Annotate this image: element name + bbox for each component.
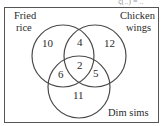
region-dim-sims-only: 11 bbox=[73, 89, 84, 101]
region-chicken-wings-only: 12 bbox=[104, 37, 115, 49]
label-dim-sims: Dim sims bbox=[108, 107, 149, 118]
header-cut-text: ξ(..) = .. bbox=[118, 0, 143, 6]
region-fried-rice-dim-sims: 6 bbox=[58, 68, 64, 80]
region-chicken-wings-dim-sims: 5 bbox=[93, 67, 99, 79]
label-chicken-wings-line2: wings bbox=[126, 22, 151, 33]
label-fried-rice-line2: rice bbox=[16, 22, 32, 33]
venn-diagram: ξ(..) = .. Fried rice Chicken wings Dim … bbox=[0, 0, 163, 126]
label-fried-rice-line1: Fried bbox=[14, 10, 37, 21]
region-fried-rice-only: 10 bbox=[42, 37, 54, 49]
label-chicken-wings-line1: Chicken bbox=[120, 10, 156, 21]
region-all-three: 2 bbox=[77, 59, 83, 71]
region-fried-rice-chicken-wings: 4 bbox=[77, 36, 83, 48]
